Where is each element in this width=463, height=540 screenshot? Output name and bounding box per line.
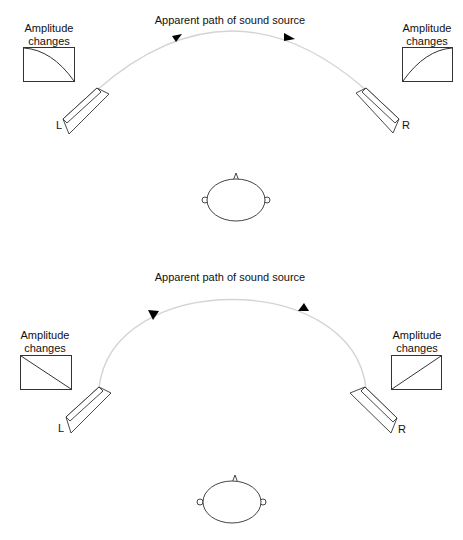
amplitude-box-right: Amplitude changes: [392, 329, 442, 390]
head-outline-icon: [203, 481, 261, 523]
amplitude-graph-frame: [403, 48, 453, 82]
path-title: Apparent path of sound source: [155, 271, 305, 283]
arrow-icon: [284, 33, 295, 41]
amplitude-box-left: Amplitude changes: [24, 22, 75, 82]
amplitude-label-line1: Amplitude: [25, 22, 74, 34]
speaker-label: R: [402, 119, 410, 131]
amplitude-box-left: Amplitude changes: [21, 329, 72, 390]
amplitude-label-line2: changes: [406, 35, 448, 47]
speaker-cone-icon: [350, 387, 397, 433]
amplitude-curve-decreasing: [24, 48, 74, 81]
speaker-label: L: [58, 422, 64, 434]
amplitude-line-decreasing: [21, 356, 71, 389]
speaker-label: L: [56, 119, 62, 131]
path-title: Apparent path of sound source: [155, 14, 305, 26]
amplitude-graph-frame: [24, 48, 75, 82]
speaker-left: L: [58, 387, 111, 434]
listener-head: [197, 475, 266, 523]
listener-head: [202, 173, 270, 221]
speaker-cone-icon: [63, 88, 109, 134]
apparent-path-arc: [99, 300, 366, 389]
speaker-right: R: [350, 387, 406, 435]
amplitude-box-right: Amplitude changes: [403, 22, 453, 82]
amplitude-curve-increasing: [403, 48, 452, 81]
speaker-label: R: [398, 423, 406, 435]
panning-diagram-canvas: Apparent path of sound source Amplitude …: [0, 0, 463, 540]
amplitude-label-line2: changes: [396, 342, 438, 354]
amplitude-label-line2: changes: [24, 342, 66, 354]
speaker-cone-icon: [356, 88, 399, 133]
ear-left-icon: [197, 499, 203, 505]
amplitude-label-line1: Amplitude: [393, 329, 442, 341]
amplitude-line-increasing: [392, 356, 441, 389]
amplitude-label-line1: Amplitude: [21, 329, 70, 341]
speaker-right: R: [356, 88, 410, 133]
apparent-path-arc: [97, 31, 366, 90]
amplitude-label-line1: Amplitude: [403, 22, 452, 34]
speaker-left: L: [56, 88, 109, 134]
amplitude-label-line2: changes: [28, 35, 70, 47]
speaker-cone-icon: [66, 387, 111, 433]
diagram-bottom-linear-panning: Apparent path of sound source Amplitude …: [21, 271, 442, 523]
head-outline-icon: [207, 179, 265, 221]
arrow-icon: [298, 303, 309, 311]
diagram-top-curved-panning: Apparent path of sound source Amplitude …: [24, 14, 453, 221]
